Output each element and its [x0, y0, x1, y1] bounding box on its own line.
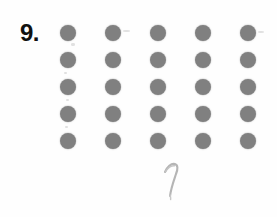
dot-r4-c3 [150, 106, 166, 122]
dot-r3-c1 [60, 79, 76, 95]
mark-right-of-row1-col2 [123, 30, 130, 32]
dot-r4-c5 [240, 106, 256, 122]
mark-below-row4-col1 [65, 126, 68, 128]
dot-r2-c1 [60, 52, 76, 68]
dot-r1-c1 [60, 25, 76, 41]
dot-row [0, 51, 277, 69]
dot-r3-c3 [150, 79, 166, 95]
dot-r1-c2 [105, 25, 121, 41]
dot-r2-c3 [150, 52, 166, 68]
dot-r5-c2 [105, 133, 121, 149]
mark-below-row3-col1 [66, 99, 69, 101]
dot-r5-c4 [195, 133, 211, 149]
dot-r5-c3 [150, 133, 166, 149]
dot-r3-c2 [105, 79, 121, 95]
dot-r4-c4 [195, 106, 211, 122]
dot-row [0, 105, 277, 123]
dot-r2-c5 [240, 52, 256, 68]
dot-r3-c5 [240, 79, 256, 95]
handwritten-answer [157, 160, 191, 202]
dot-r4-c2 [105, 106, 121, 122]
mark-below-row2-col1 [64, 72, 67, 74]
dot-r2-c4 [195, 52, 211, 68]
dot-r3-c4 [195, 79, 211, 95]
dot-r5-c5 [240, 133, 256, 149]
dot-row [0, 132, 277, 150]
dot-r2-c2 [105, 52, 121, 68]
worksheet-page: 9. [0, 0, 277, 217]
dot-array [0, 0, 277, 217]
dot-r1-c5 [240, 25, 256, 41]
mark-right-of-row1-col5 [258, 31, 264, 33]
dot-row [0, 78, 277, 96]
dot-r1-c3 [150, 25, 166, 41]
dot-r1-c4 [195, 25, 211, 41]
dot-r4-c1 [60, 106, 76, 122]
dot-r5-c1 [60, 133, 76, 149]
dot-row [0, 24, 277, 42]
mark-below-row1-col1 [71, 43, 75, 46]
